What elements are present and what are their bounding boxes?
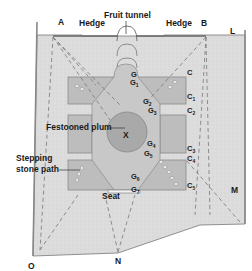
label-stepping-stone-1: Stepping bbox=[16, 153, 52, 163]
label-fruit-tunnel: Fruit tunnel bbox=[104, 10, 151, 20]
label-point-n: N bbox=[115, 256, 121, 266]
label-point-x: X bbox=[123, 130, 129, 140]
garden-plan-diagram: Fruit tunnel A Hedge Hedge B L G G1 G2 G… bbox=[0, 0, 252, 271]
label-hedge-right: Hedge bbox=[166, 18, 192, 28]
label-point-a: A bbox=[58, 17, 64, 27]
label-stepping-stone-2: stone path bbox=[16, 164, 59, 174]
label-hedge-left: Hedge bbox=[79, 18, 105, 28]
bed-mid-right bbox=[160, 115, 186, 153]
label-festooned-plum: Festooned plum bbox=[46, 122, 112, 132]
label-point-m: M bbox=[231, 185, 238, 195]
label-point-l: L bbox=[230, 26, 235, 36]
label-seat: Seat bbox=[102, 191, 120, 201]
label-point-b: B bbox=[201, 18, 207, 28]
label-point-o: O bbox=[28, 261, 35, 271]
label-c: C bbox=[187, 68, 193, 77]
bed-mid-left bbox=[68, 115, 92, 153]
